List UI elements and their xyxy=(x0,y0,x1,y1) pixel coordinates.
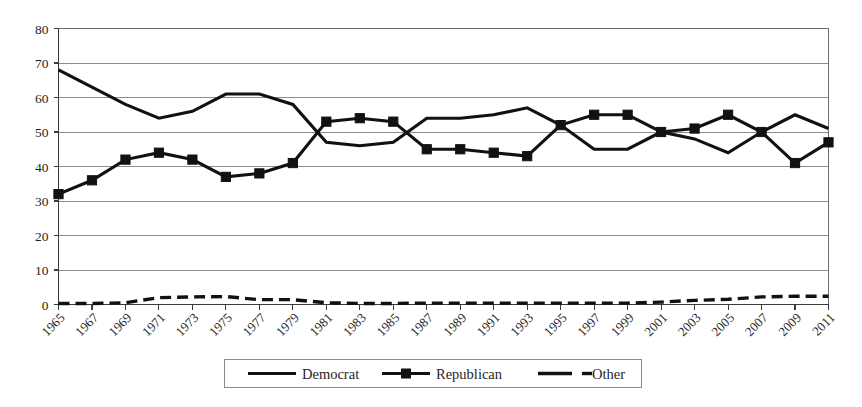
x-tick-label: 1989 xyxy=(440,310,469,339)
y-tick-label: 70 xyxy=(35,56,49,71)
x-tick-label: 1981 xyxy=(306,310,335,339)
x-tick-label: 1987 xyxy=(407,310,436,339)
data-point-marker xyxy=(824,138,833,147)
x-tick-label: 2011 xyxy=(809,310,838,339)
data-point-marker xyxy=(556,121,565,130)
y-axis-tick-marks xyxy=(54,29,59,305)
data-point-marker xyxy=(87,176,96,185)
legend-label: Republican xyxy=(436,366,503,382)
data-point-marker xyxy=(255,169,264,178)
x-tick-label: 1971 xyxy=(139,310,168,339)
y-tick-label: 0 xyxy=(42,298,49,313)
data-point-marker xyxy=(154,148,163,157)
data-point-marker xyxy=(790,158,799,167)
x-tick-label: 1985 xyxy=(373,310,402,339)
data-point-marker xyxy=(322,117,331,126)
data-series xyxy=(54,70,833,304)
x-tick-label: 1997 xyxy=(574,310,603,339)
x-tick-label: 1975 xyxy=(206,310,235,339)
x-tick-label: 1999 xyxy=(608,310,637,339)
data-point-marker xyxy=(188,155,197,164)
x-tick-label: 2009 xyxy=(775,310,804,339)
x-tick-label: 1991 xyxy=(474,310,503,339)
x-tick-label: 1983 xyxy=(340,310,369,339)
x-tick-label: 2003 xyxy=(675,310,704,339)
data-point-marker xyxy=(489,148,498,157)
y-tick-label: 80 xyxy=(35,22,49,37)
y-tick-label: 50 xyxy=(35,125,49,140)
data-point-marker xyxy=(54,190,63,199)
x-tick-label: 2005 xyxy=(708,310,737,339)
data-point-marker xyxy=(590,110,599,119)
data-point-marker xyxy=(288,158,297,167)
y-axis-tick-labels: 01020304050607080 xyxy=(35,22,49,313)
legend-label: Democrat xyxy=(302,366,359,382)
data-point-marker xyxy=(690,124,699,133)
x-tick-label: 2001 xyxy=(641,310,670,339)
data-point-marker xyxy=(456,145,465,154)
data-point-marker xyxy=(121,155,130,164)
x-tick-label: 1995 xyxy=(541,310,570,339)
gridlines xyxy=(59,63,829,270)
data-point-marker xyxy=(657,127,666,136)
x-tick-label: 1973 xyxy=(173,310,202,339)
y-tick-label: 40 xyxy=(35,160,49,175)
x-tick-label: 1977 xyxy=(239,310,268,339)
x-tick-label: 1967 xyxy=(72,310,101,339)
y-tick-label: 30 xyxy=(35,194,49,209)
x-tick-label: 1965 xyxy=(39,310,68,339)
legend-swatch-marker xyxy=(401,369,411,379)
series-line-other xyxy=(59,296,829,303)
y-tick-label: 60 xyxy=(35,91,49,106)
x-tick-label: 1969 xyxy=(106,310,135,339)
x-tick-label: 1979 xyxy=(273,310,302,339)
x-axis-tick-marks xyxy=(59,305,829,310)
series-line-republican xyxy=(59,115,829,194)
data-point-marker xyxy=(422,145,431,154)
data-point-marker xyxy=(757,127,766,136)
data-point-marker xyxy=(389,117,398,126)
y-tick-label: 10 xyxy=(35,263,49,278)
x-axis-tick-labels: 1965196719691971197319751977197919811983… xyxy=(39,310,838,339)
line-chart: 01020304050607080 1965196719691971197319… xyxy=(0,0,862,407)
data-point-marker xyxy=(723,110,732,119)
x-tick-label: 1993 xyxy=(507,310,536,339)
chart-container: 01020304050607080 1965196719691971197319… xyxy=(0,0,862,407)
x-tick-label: 2007 xyxy=(742,310,771,339)
data-point-marker xyxy=(221,172,230,181)
data-point-marker xyxy=(523,152,532,161)
legend-label: Other xyxy=(592,366,625,382)
chart-legend: DemocratRepublicanOther xyxy=(225,360,642,388)
y-tick-label: 20 xyxy=(35,229,49,244)
data-point-marker xyxy=(355,114,364,123)
data-point-marker xyxy=(623,110,632,119)
series-line-democrat xyxy=(59,70,829,153)
